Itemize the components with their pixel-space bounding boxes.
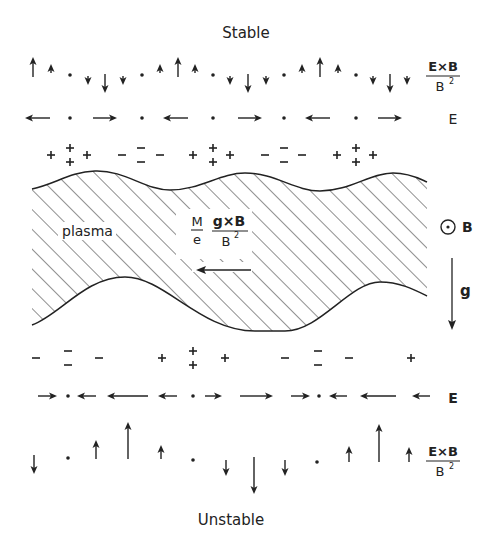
exb-up-arrow-small (192, 64, 199, 73)
exb-up-arrow (406, 447, 413, 462)
exb-down-arrow-small (263, 76, 270, 85)
b-field-out-of-page-icon (441, 220, 455, 234)
positive-charge-icon (407, 354, 415, 362)
e-left-arrow (360, 393, 396, 400)
e-right-arrow (240, 393, 273, 400)
unstable-title: Unstable (198, 511, 264, 529)
exb-down-arrow (102, 74, 109, 93)
exb-down-arrow-small (120, 76, 127, 85)
exb-down-arrow (387, 74, 394, 93)
gravity-arrow (448, 258, 456, 330)
exb-up-arrow (376, 424, 383, 462)
null-point-dot (211, 116, 215, 120)
null-point-dot (68, 116, 72, 120)
exb-down-arrow-small (404, 76, 411, 85)
stable-title: Stable (222, 24, 270, 42)
plasma-label: plasma (62, 223, 113, 239)
diagram-canvas: Stable Unstable E×B B 2 E plasma M e g×B… (0, 0, 495, 546)
null-point-dot (191, 394, 195, 398)
positive-charge-icon (66, 144, 74, 152)
exb-up-arrow (125, 422, 132, 459)
e-left-arrow (158, 393, 177, 400)
svg-text:E×B: E×B (428, 444, 458, 459)
gravity-label: g (460, 282, 471, 300)
exb-up-arrow (175, 57, 182, 77)
e-right-arrow (205, 393, 222, 400)
exb-down-arrow (251, 457, 258, 494)
null-point-dot (140, 73, 144, 77)
exb-up-arrow-small (157, 64, 164, 73)
null-point-dot (68, 73, 72, 77)
e-left-arrow (305, 115, 330, 122)
null-point-dot (315, 460, 319, 464)
exb-down-arrow (31, 455, 38, 474)
exb-down-arrow-small (370, 76, 377, 85)
exb-label-bottom: E×B B 2 (426, 444, 460, 479)
svg-text:2: 2 (234, 231, 239, 240)
positive-charge-icon (226, 151, 234, 159)
positive-charge-icon (158, 354, 166, 362)
null-point-dot (354, 116, 358, 120)
e-left-arrow (163, 115, 188, 122)
rayleigh-taylor-diagram: Stable Unstable E×B B 2 E plasma M e g×B… (0, 0, 495, 546)
e-left-arrow (25, 115, 50, 122)
e-right-arrow (38, 393, 57, 400)
stable-e-field-arrows (25, 115, 402, 122)
positive-charge-icon (369, 151, 377, 159)
svg-text:M: M (191, 214, 202, 229)
positive-charge-icon (83, 151, 91, 159)
exb-up-arrow (158, 445, 165, 459)
null-point-dot (317, 394, 321, 398)
exb-label-top: E×B B 2 (426, 59, 460, 94)
svg-text:B: B (436, 79, 445, 94)
exb-down-arrow (245, 74, 252, 93)
svg-text:2: 2 (449, 462, 454, 471)
e-left-arrow (107, 393, 148, 400)
svg-text:g×B: g×B (213, 213, 245, 229)
null-point-dot (191, 458, 195, 462)
stable-surface-charges (47, 144, 377, 166)
exb-up-arrow (93, 440, 100, 459)
positive-charge-icon (209, 158, 217, 166)
exb-up-arrow-small (299, 64, 306, 73)
e-left-arrow (77, 393, 96, 400)
null-point-dot (140, 116, 144, 120)
positive-charge-icon (47, 151, 55, 159)
e-left-arrow (412, 393, 430, 400)
exb-up-arrow-small (335, 64, 342, 73)
positive-charge-icon (333, 151, 341, 159)
exb-up-arrow (317, 57, 324, 77)
null-point-dot (354, 73, 358, 77)
svg-text:2: 2 (449, 77, 454, 86)
e-right-arrow (238, 115, 262, 122)
unstable-surface-charges (32, 347, 415, 369)
exb-down-arrow (282, 460, 289, 476)
positive-charge-icon (352, 144, 360, 152)
e-field-label-bottom: E (448, 390, 458, 406)
unstable-exb-drift-arrows (31, 422, 413, 494)
unstable-e-field-arrows (38, 393, 430, 400)
null-point-dot (282, 116, 286, 120)
null-point-dot (66, 394, 70, 398)
svg-text:e: e (193, 232, 201, 247)
stable-exb-drift-arrows (30, 57, 411, 93)
e-left-arrow (329, 393, 347, 400)
svg-text:B: B (436, 464, 445, 479)
positive-charge-icon (209, 144, 217, 152)
svg-text:B: B (222, 234, 231, 249)
positive-charge-icon (352, 158, 360, 166)
positive-charge-icon (189, 347, 197, 355)
b-field-label: B (462, 219, 473, 235)
svg-text:E×B: E×B (428, 59, 458, 74)
positive-charge-icon (189, 151, 197, 159)
exb-down-arrow-small (227, 76, 234, 85)
exb-up-arrow (346, 446, 353, 462)
e-right-arrow (93, 115, 117, 122)
exb-up-arrow (30, 57, 37, 77)
exb-up-arrow-small (48, 64, 55, 73)
e-right-arrow (378, 115, 402, 122)
positive-charge-icon (66, 158, 74, 166)
exb-down-arrow (223, 460, 230, 476)
null-point-dot (66, 456, 70, 460)
positive-charge-icon (221, 354, 229, 362)
